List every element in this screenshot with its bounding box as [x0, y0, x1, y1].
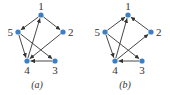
- graph-panel-a: 12345(a): [0, 0, 85, 95]
- edge-2-to-1: [131, 17, 149, 30]
- graph-caption: (a): [31, 79, 43, 91]
- node-3: [139, 58, 144, 63]
- edge-5-to-3: [107, 34, 139, 59]
- node-2: [148, 29, 153, 34]
- directed-graph-a: 12345(a): [0, 0, 85, 95]
- node-label-3: 3: [139, 64, 145, 76]
- node-1: [125, 12, 130, 17]
- node-1: [38, 12, 43, 17]
- directed-graph-b: 12345(b): [85, 0, 170, 95]
- node-label-3: 3: [52, 64, 58, 76]
- node-label-2: 2: [156, 26, 162, 38]
- node-4: [112, 58, 117, 63]
- graph-caption: (b): [119, 79, 131, 91]
- node-5: [15, 29, 20, 34]
- node-label-4: 4: [112, 64, 118, 76]
- node-label-4: 4: [24, 64, 30, 76]
- node-2: [60, 29, 65, 34]
- node-label-5: 5: [8, 26, 14, 38]
- edge-1-to-2: [43, 17, 60, 30]
- node-label-1: 1: [125, 0, 131, 12]
- node-label-2: 2: [68, 26, 74, 38]
- node-label-5: 5: [95, 26, 101, 38]
- node-3: [52, 58, 57, 63]
- node-5: [102, 29, 107, 34]
- node-label-1: 1: [38, 0, 44, 12]
- edge-5-to-1: [107, 17, 125, 30]
- edge-1-to-5: [21, 17, 39, 30]
- node-4: [24, 58, 29, 63]
- edge-5-to-4: [19, 35, 26, 58]
- graph-panel-b: 12345(b): [85, 0, 170, 95]
